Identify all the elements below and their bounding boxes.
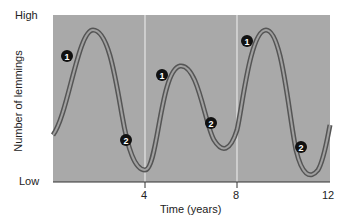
- chart: 12 12 12: [0, 0, 351, 223]
- y-label-high: High: [15, 9, 38, 21]
- svg-text:1: 1: [244, 37, 249, 47]
- x-axis-title: Time (years): [160, 203, 221, 215]
- y-label-low: Low: [19, 175, 39, 187]
- y-axis-title: Number of lemmings: [12, 50, 24, 151]
- svg-text:2: 2: [208, 119, 213, 129]
- x-tick-4: 4: [141, 189, 147, 201]
- svg-text:1: 1: [159, 71, 164, 81]
- x-tick-8: 8: [233, 189, 239, 201]
- x-tick-12: 12: [322, 189, 334, 201]
- svg-text:2: 2: [123, 136, 128, 146]
- svg-text:1: 1: [64, 52, 69, 62]
- svg-text:2: 2: [298, 143, 303, 153]
